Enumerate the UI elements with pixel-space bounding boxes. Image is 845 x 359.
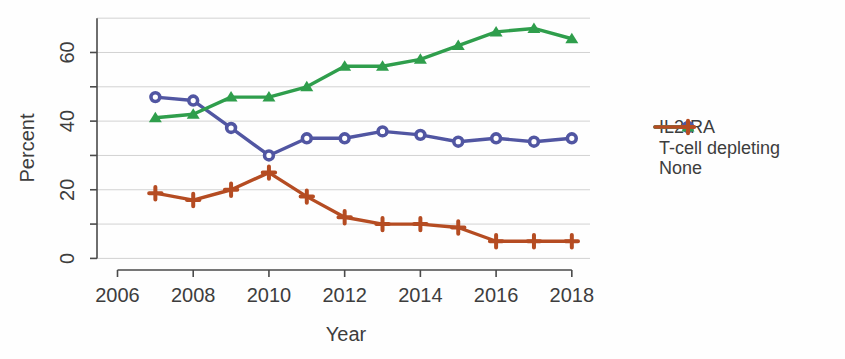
- series-marker-il2-ra: [227, 124, 236, 133]
- x-tick-label: 2006: [95, 284, 140, 306]
- series-marker-none: [528, 235, 540, 247]
- x-axis-title: Year: [326, 323, 366, 346]
- chart-figure: 02040602006200820102012201420162018 Perc…: [0, 0, 845, 359]
- x-tick-label: 2008: [171, 284, 216, 306]
- series-marker-none: [338, 211, 350, 223]
- legend-item-none: None: [653, 158, 780, 178]
- legend-item-label: T-cell depleting: [659, 138, 780, 158]
- legend-item-label: None: [659, 158, 702, 178]
- series-marker-none: [566, 235, 578, 247]
- y-tick-label: 20: [56, 179, 78, 201]
- series-marker-il2-ra: [189, 96, 198, 105]
- series-marker-il2-ra: [378, 127, 387, 136]
- series-marker-none: [414, 218, 426, 230]
- series-marker-il2-ra: [567, 134, 576, 143]
- series-line-il2-ra: [155, 97, 571, 155]
- series-marker-none: [149, 187, 161, 199]
- series-marker-none: [225, 184, 237, 196]
- y-tick-label: 40: [56, 110, 78, 132]
- x-tick-label: 2012: [322, 284, 367, 306]
- series-marker-none: [376, 218, 388, 230]
- series-marker-none: [490, 235, 502, 247]
- series-line-none: [155, 173, 571, 242]
- series-marker-il2-ra: [530, 137, 539, 146]
- y-axis-title: Percent: [16, 114, 39, 183]
- legend-marker-icon: [682, 121, 694, 133]
- series-marker-il2-ra: [151, 93, 160, 102]
- series-marker-none: [187, 194, 199, 206]
- x-tick-label: 2018: [550, 284, 595, 306]
- series-marker-il2-ra: [340, 134, 349, 143]
- x-tick-label: 2010: [247, 284, 292, 306]
- x-tick-label: 2016: [474, 284, 519, 306]
- y-tick-label: 0: [56, 253, 78, 264]
- x-tick-label: 2014: [398, 284, 443, 306]
- line-chart-plot: 02040602006200820102012201420162018: [0, 0, 845, 359]
- series-marker-il2-ra: [416, 130, 425, 139]
- series-marker-il2-ra: [492, 134, 501, 143]
- legend-item-t-cell-depleting: T-cell depleting: [653, 138, 780, 158]
- series-marker-il2-ra: [265, 151, 274, 160]
- legend-line-plus-icon: [653, 117, 697, 137]
- series-marker-il2-ra: [302, 134, 311, 143]
- series-marker-il2-ra: [454, 137, 463, 146]
- series-marker-none: [452, 221, 464, 233]
- y-tick-label: 60: [56, 41, 78, 63]
- legend: IL2-RA T-cell depleting None: [653, 117, 780, 179]
- series-line-t-cell-depleting: [155, 28, 571, 117]
